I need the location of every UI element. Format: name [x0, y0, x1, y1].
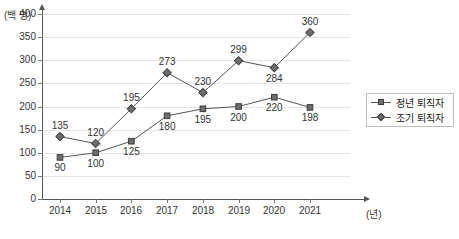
legend-item-0[interactable]: 정년 퇴직자 — [371, 96, 449, 109]
point-value-label-1-2: 195 — [114, 92, 148, 103]
point-value-label-0-2: 125 — [114, 146, 148, 157]
legend-diamond-marker-icon — [371, 112, 391, 123]
data-point-0-2[interactable] — [129, 138, 135, 144]
data-point-1-0[interactable] — [56, 132, 64, 140]
point-value-label-0-3: 180 — [150, 121, 184, 132]
point-value-label-1-1: 120 — [79, 127, 113, 138]
legend-label-1: 조기 퇴직자 — [396, 110, 444, 125]
point-value-label-1-6: 284 — [257, 73, 291, 84]
data-point-0-5[interactable] — [236, 104, 242, 110]
chart-legend: 정년 퇴직자 조기 퇴직자 — [366, 93, 454, 127]
point-value-label-0-6: 220 — [257, 102, 291, 113]
point-value-label-0-1: 100 — [79, 158, 113, 169]
legend-square-marker-icon — [371, 97, 391, 108]
point-value-label-0-7: 198 — [293, 112, 327, 123]
legend-label-0: 정년 퇴직자 — [396, 95, 444, 110]
data-point-0-4[interactable] — [200, 106, 206, 112]
point-value-label-1-5: 299 — [222, 44, 256, 55]
point-value-label-1-4: 230 — [186, 76, 220, 87]
point-value-label-1-3: 273 — [150, 56, 184, 67]
point-value-label-0-4: 195 — [186, 114, 220, 125]
point-value-label-1-7: 360 — [293, 16, 327, 27]
point-value-label-1-0: 135 — [43, 120, 77, 131]
point-value-label-0-0: 90 — [43, 162, 77, 173]
data-point-0-1[interactable] — [93, 150, 99, 156]
data-point-0-0[interactable] — [57, 155, 63, 161]
data-point-0-7[interactable] — [307, 105, 313, 111]
point-value-label-0-5: 200 — [222, 112, 256, 123]
chart-root: (백 명) (년) 050100150200250300350400 20142… — [0, 0, 459, 239]
data-point-0-6[interactable] — [272, 94, 278, 100]
legend-item-1[interactable]: 조기 퇴직자 — [371, 111, 449, 124]
data-point-0-3[interactable] — [164, 113, 170, 119]
